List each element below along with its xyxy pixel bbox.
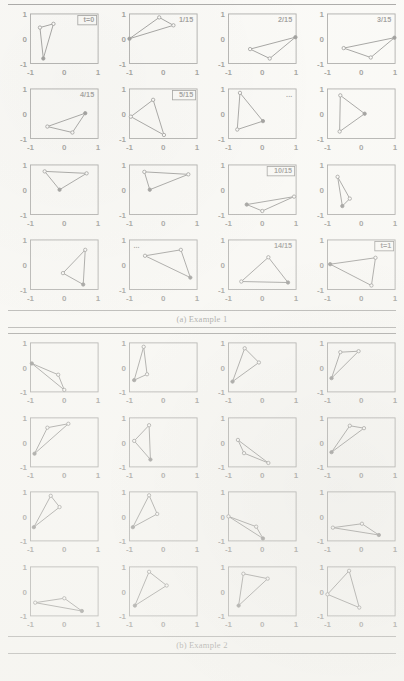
y-tick-label: 0	[221, 364, 226, 373]
triangle-shape	[344, 38, 395, 58]
x-tick-label: 0	[62, 545, 67, 554]
x-tick-label: 1	[195, 68, 200, 77]
x-tick-label: -1	[225, 68, 233, 77]
plot-panel: 10-1-101...	[202, 83, 301, 158]
y-tick-label: 0	[221, 185, 226, 194]
time-label: 3/15	[377, 15, 391, 24]
x-tick-label: 1	[96, 620, 101, 629]
x-tick-label: 1	[294, 471, 299, 480]
x-tick-label: 0	[62, 620, 67, 629]
plot-panel: 10-1-101	[4, 486, 103, 561]
x-tick-label: 1	[294, 396, 299, 405]
plot-svg: 10-1-101	[4, 412, 103, 487]
y-tick-label: 0	[23, 35, 28, 44]
vertex-marker-open	[58, 505, 61, 508]
x-tick-label: 1	[393, 143, 398, 152]
plot-svg: 10-1-101...	[202, 83, 301, 158]
time-label: 4/15	[80, 90, 94, 99]
vertex-marker-filled	[133, 603, 136, 606]
vertex-marker-open	[142, 345, 145, 348]
x-tick-label: -1	[225, 545, 233, 554]
triangle-shape	[250, 37, 295, 58]
y-tick-label: 1	[122, 488, 127, 497]
plot-panel: 10-1-1012/15	[202, 8, 301, 83]
y-tick-label: 0	[320, 513, 325, 522]
y-tick-label: 1	[221, 10, 226, 19]
vertex-marker-open	[261, 209, 264, 212]
y-tick-label: 1	[122, 85, 127, 94]
caption-number-b: (b)	[176, 640, 187, 650]
vertex-marker-open	[267, 255, 270, 258]
x-tick-label: 1	[393, 218, 398, 227]
y-tick-label: 1	[122, 161, 127, 170]
x-tick-label: -1	[324, 396, 332, 405]
triangle-shape	[35, 598, 82, 611]
x-tick-label: -1	[324, 218, 332, 227]
x-tick-label: 0	[161, 620, 166, 629]
plot-svg: 10-1-101	[4, 561, 103, 636]
triangle-shape	[145, 250, 190, 278]
vertex-marker-open	[156, 512, 159, 515]
vertex-marker-open	[342, 46, 345, 49]
plot-panel: 10-1-101	[4, 412, 103, 487]
plot-panel: 10-1-101	[202, 561, 301, 636]
x-tick-label: 1	[195, 143, 200, 152]
vertex-marker-filled	[189, 276, 192, 279]
vertex-marker-open	[326, 592, 329, 595]
triangle-shape	[247, 196, 294, 210]
x-tick-label: 1	[393, 620, 398, 629]
x-tick-label: 1	[294, 143, 299, 152]
vertex-marker-open	[162, 134, 165, 137]
time-label: 2/15	[278, 15, 292, 24]
plot-panel: 10-1-101	[301, 412, 400, 487]
triangle-shape	[134, 425, 150, 459]
y-tick-label: 1	[221, 161, 226, 170]
plot-panel: 10-1-101	[202, 337, 301, 412]
triangle-shape	[34, 496, 60, 527]
x-tick-label: 1	[294, 545, 299, 554]
y-tick-label: 1	[23, 488, 28, 497]
y-tick-label: 1	[23, 339, 28, 348]
y-tick-label: 1	[221, 414, 226, 423]
vertex-marker-open	[147, 423, 150, 426]
panel-grid-example-1: 10-1-101t=010-1-1011/1510-1-1012/1510-1-…	[0, 5, 404, 310]
vertex-marker-open	[331, 526, 334, 529]
plot-panel: 10-1-101	[301, 337, 400, 412]
triangle-shape	[40, 24, 54, 59]
vertex-marker-open	[71, 131, 74, 134]
time-label: t=1	[380, 241, 391, 250]
x-tick-label: 1	[393, 396, 398, 405]
vertex-marker-open	[360, 522, 363, 525]
x-tick-label: -1	[27, 218, 35, 227]
axes-frame	[327, 89, 395, 139]
x-tick-label: 0	[161, 143, 166, 152]
y-tick-label: 1	[221, 488, 226, 497]
x-tick-label: 0	[161, 396, 166, 405]
plot-svg: 10-1-101	[103, 412, 202, 487]
plot-panel: 10-1-101	[301, 486, 400, 561]
y-tick-label: 1	[221, 236, 226, 245]
plot-svg: 10-1-101	[202, 337, 301, 412]
y-tick-label: 1	[122, 414, 127, 423]
vertex-marker-open	[43, 169, 46, 172]
x-tick-label: 1	[195, 396, 200, 405]
y-tick-label: 0	[221, 587, 226, 596]
plot-svg: 10-1-101	[301, 412, 400, 487]
vertex-marker-open	[348, 196, 351, 199]
y-tick-label: 0	[122, 261, 127, 270]
vertex-marker-open	[236, 438, 239, 441]
x-tick-label: 1	[96, 396, 101, 405]
y-tick-label: 1	[320, 10, 325, 19]
vertex-marker-open	[84, 248, 87, 251]
x-tick-label: 0	[260, 68, 265, 77]
axes-frame	[30, 566, 98, 615]
y-tick-label: 0	[23, 587, 28, 596]
plot-panel: 10-1-101	[103, 337, 202, 412]
y-tick-label: 0	[122, 438, 127, 447]
x-tick-label: -1	[225, 294, 233, 303]
vertex-marker-filled	[30, 362, 33, 365]
axes-frame	[327, 343, 395, 392]
triangle-shape	[233, 348, 259, 381]
plot-panel: 10-1-10110/15	[202, 159, 301, 234]
y-tick-label: 0	[122, 35, 127, 44]
